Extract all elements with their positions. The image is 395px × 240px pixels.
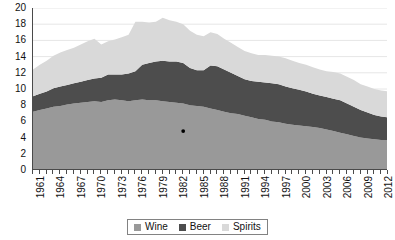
x-axis-tick-label: 2012 bbox=[384, 176, 394, 198]
y-axis-tick-label: 10 bbox=[15, 84, 26, 94]
x-axis-tick bbox=[46, 170, 47, 174]
x-axis-tick bbox=[250, 170, 251, 174]
x-axis-tick-label: 1976 bbox=[138, 176, 148, 198]
chart-legend: WineBeerSpirits bbox=[127, 219, 268, 235]
x-axis-tick bbox=[52, 170, 53, 174]
x-axis-tick bbox=[264, 170, 265, 174]
x-axis-tick bbox=[332, 170, 333, 174]
x-axis-tick-label: 2009 bbox=[364, 176, 374, 198]
y-axis-tick-label: 0 bbox=[20, 165, 26, 175]
x-axis-tick bbox=[128, 170, 129, 174]
x-axis-tick bbox=[121, 170, 122, 174]
x-axis-tick bbox=[291, 170, 292, 174]
y-axis-tick-label: 2 bbox=[20, 149, 26, 159]
legend-swatch-icon bbox=[222, 224, 229, 231]
x-axis-tick-label: 1967 bbox=[77, 176, 87, 198]
legend-label: Wine bbox=[145, 222, 168, 232]
legend-label: Spirits bbox=[233, 222, 261, 232]
stacked-area-chart: 02468101214161820 1961196419671970197319… bbox=[0, 0, 395, 240]
y-axis-tick-label: 8 bbox=[20, 100, 26, 110]
x-axis-tick-label: 2000 bbox=[302, 176, 312, 198]
x-axis-tick bbox=[312, 170, 313, 174]
x-axis-tick bbox=[285, 170, 286, 174]
x-axis-tick bbox=[380, 170, 381, 174]
x-axis-tick-label: 1979 bbox=[159, 176, 169, 198]
x-axis-tick-label: 1997 bbox=[282, 176, 292, 198]
legend-item-wine: Wine bbox=[134, 222, 168, 232]
x-axis-tick bbox=[80, 170, 81, 174]
x-axis-tick-label: 1964 bbox=[56, 176, 66, 198]
legend-swatch-icon bbox=[179, 224, 186, 231]
y-axis-tick-label: 12 bbox=[15, 68, 26, 78]
x-axis-tick bbox=[162, 170, 163, 174]
y-axis-tick-label: 20 bbox=[15, 3, 26, 13]
x-axis-tick bbox=[387, 170, 388, 174]
x-axis-tick bbox=[319, 170, 320, 174]
x-axis-tick bbox=[203, 170, 204, 174]
legend-item-beer: Beer bbox=[179, 222, 211, 232]
x-axis-tick bbox=[134, 170, 135, 174]
y-axis-tick-label: 14 bbox=[15, 52, 26, 62]
y-axis-tick-label: 18 bbox=[15, 19, 26, 29]
y-axis: 02468101214161820 bbox=[0, 0, 29, 178]
x-axis-tick bbox=[360, 170, 361, 174]
x-axis-tick bbox=[339, 170, 340, 174]
x-axis-tick bbox=[175, 170, 176, 174]
legend-swatch-icon bbox=[134, 224, 141, 231]
x-axis: 1961196419671970197319761979198219851988… bbox=[32, 176, 387, 212]
x-axis-tick-label: 1970 bbox=[97, 176, 107, 198]
x-axis-tick bbox=[114, 170, 115, 174]
x-axis-tick bbox=[107, 170, 108, 174]
x-axis-tick-label: 1973 bbox=[118, 176, 128, 198]
x-axis-tick-label: 1988 bbox=[220, 176, 230, 198]
x-axis-tick bbox=[353, 170, 354, 174]
data-point-marker bbox=[181, 129, 185, 133]
x-axis-tick bbox=[257, 170, 258, 174]
x-axis-tick bbox=[223, 170, 224, 174]
x-axis-tick-label: 1991 bbox=[241, 176, 251, 198]
y-axis-tick-label: 4 bbox=[20, 133, 26, 143]
x-axis-tick-label: 1985 bbox=[200, 176, 210, 198]
x-axis-tick bbox=[155, 170, 156, 174]
x-axis-tick bbox=[87, 170, 88, 174]
x-axis-tick bbox=[141, 170, 142, 174]
x-axis-tick-label: 2003 bbox=[323, 176, 333, 198]
x-axis-tick bbox=[189, 170, 190, 174]
x-axis-tick bbox=[182, 170, 183, 174]
legend-item-spirits: Spirits bbox=[222, 222, 261, 232]
x-axis-tick-label: 1982 bbox=[179, 176, 189, 198]
x-axis-tick bbox=[169, 170, 170, 174]
y-axis-tick-label: 16 bbox=[15, 35, 26, 45]
x-axis-tick bbox=[59, 170, 60, 174]
x-axis-tick-label: 1961 bbox=[36, 176, 46, 198]
x-axis-tick bbox=[196, 170, 197, 174]
x-axis-tick bbox=[326, 170, 327, 174]
x-axis-tick bbox=[100, 170, 101, 174]
y-axis-tick-label: 6 bbox=[20, 116, 26, 126]
x-axis-tick bbox=[298, 170, 299, 174]
x-axis-tick bbox=[216, 170, 217, 174]
legend-label: Beer bbox=[190, 222, 211, 232]
x-axis-tick-label: 1994 bbox=[261, 176, 271, 198]
x-axis-tick bbox=[230, 170, 231, 174]
x-axis-tick bbox=[66, 170, 67, 174]
plot-area bbox=[32, 8, 387, 170]
x-axis-tick bbox=[32, 170, 33, 174]
x-axis-tick bbox=[305, 170, 306, 174]
x-axis-tick bbox=[367, 170, 368, 174]
x-axis-tick bbox=[271, 170, 272, 174]
x-axis-tick bbox=[278, 170, 279, 174]
x-axis-tick bbox=[39, 170, 40, 174]
x-axis-tick bbox=[346, 170, 347, 174]
plot-svg bbox=[33, 8, 387, 170]
x-axis-tick-label: 2006 bbox=[343, 176, 353, 198]
x-axis-tick bbox=[93, 170, 94, 174]
x-axis-ticks bbox=[32, 170, 387, 175]
x-axis-tick bbox=[373, 170, 374, 174]
x-axis-tick bbox=[210, 170, 211, 174]
x-axis-tick bbox=[73, 170, 74, 174]
x-axis-tick bbox=[237, 170, 238, 174]
x-axis-tick bbox=[148, 170, 149, 174]
x-axis-tick bbox=[244, 170, 245, 174]
